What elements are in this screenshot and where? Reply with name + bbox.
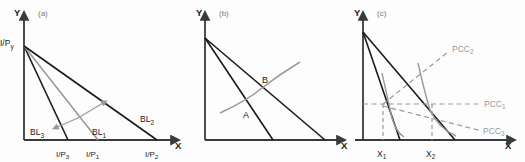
panel-c-letter: (c) xyxy=(377,9,387,18)
panel-c-x-axis-label: X xyxy=(505,140,512,151)
panel-b-x-axis-label: X xyxy=(341,140,348,151)
panel-a-y-axis-label: Y xyxy=(14,7,21,18)
panel-c-y-axis-label: Y xyxy=(354,7,361,18)
panel-a-letter: (a) xyxy=(38,9,48,18)
panel-b-point-a-label: A xyxy=(243,110,249,120)
economics-three-panel-figure: Y X (a) I/Py BL3 BL1 BL2 I/P3 I/P1 I/P2 xyxy=(0,0,525,162)
panel-b-letter: (b) xyxy=(219,9,229,18)
panel-b-point-b-label: B xyxy=(262,75,268,85)
panel-b-y-axis-label: Y xyxy=(196,7,203,18)
panel-a-x-axis-label: X xyxy=(175,140,182,151)
